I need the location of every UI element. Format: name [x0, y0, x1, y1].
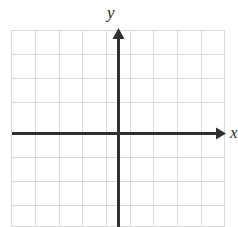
coordinate-plane-svg	[0, 0, 238, 227]
y-axis-label: y	[107, 4, 115, 21]
x-axis-label: x	[230, 124, 238, 141]
coordinate-plane-figure: y x	[0, 0, 238, 227]
y-axis	[113, 28, 125, 227]
